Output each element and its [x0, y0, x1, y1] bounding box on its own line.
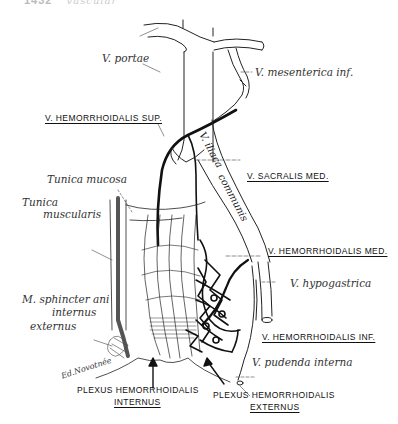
v-mesenterica-trunk: [178, 52, 184, 160]
label-v-sacralis-med: V. SACRALIS MED.: [247, 171, 329, 182]
label-v-hemorrhoidalis-inf: V. HEMORRHOIDALIS INF.: [262, 332, 375, 343]
label-m-sphincter-externus: externus: [30, 320, 77, 332]
label-v-mesenterica-inf: V. mesenterica inf.: [255, 66, 353, 78]
v-portae-vessel: [144, 23, 214, 42]
label-tunica-muscularis-1: Tunica: [22, 196, 58, 208]
label-tunica-muscularis-2: muscularis: [43, 208, 101, 220]
label-plexus-internus-1: PLEXUS HEMORRHOIDALIS: [77, 385, 199, 396]
label-v-portae: V. portae: [102, 52, 149, 64]
label-v-hemorrhoidalis-med: V. HEMORRHOIDALIS MED.: [268, 246, 387, 257]
label-v-hypogastrica: V. hypogastrica: [290, 277, 371, 289]
label-plexus-internus-2: INTERNUS: [114, 397, 161, 408]
v-iliaca-communis-vessel: [212, 120, 270, 262]
label-v-pudenda-interna: V. pudenda interna: [252, 356, 353, 368]
label-tunica-mucosa: Tunica mucosa: [47, 173, 127, 185]
rectum-wall: [118, 198, 128, 356]
label-plexus-externus-1: PLEXUS HEMORRHOIDALIS: [213, 390, 335, 401]
label-v-hemorrhoidalis-sup: V. HEMORRHOIDALIS SUP.: [45, 113, 162, 124]
label-m-sphincter-ani: M. sphincter ani: [22, 293, 109, 305]
label-m-sphincter-internus: internus: [52, 306, 97, 318]
label-plexus-externus-2: EXTERNUS: [250, 402, 300, 413]
figure-page: 1432 vascular: [0, 0, 398, 424]
